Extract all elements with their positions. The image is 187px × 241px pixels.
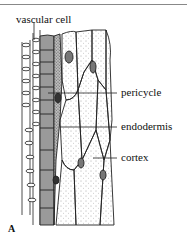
cortex-cells	[56, 30, 114, 225]
label-endodermis: endodermis	[121, 121, 172, 132]
label-pericycle: pericycle	[121, 87, 161, 98]
label-cortex: cortex	[121, 152, 148, 163]
vascular-cells	[22, 30, 40, 225]
panel-label: A	[8, 223, 15, 234]
pericycle-cells	[40, 35, 54, 225]
label-vascular-cell: vascular cell	[16, 14, 71, 25]
